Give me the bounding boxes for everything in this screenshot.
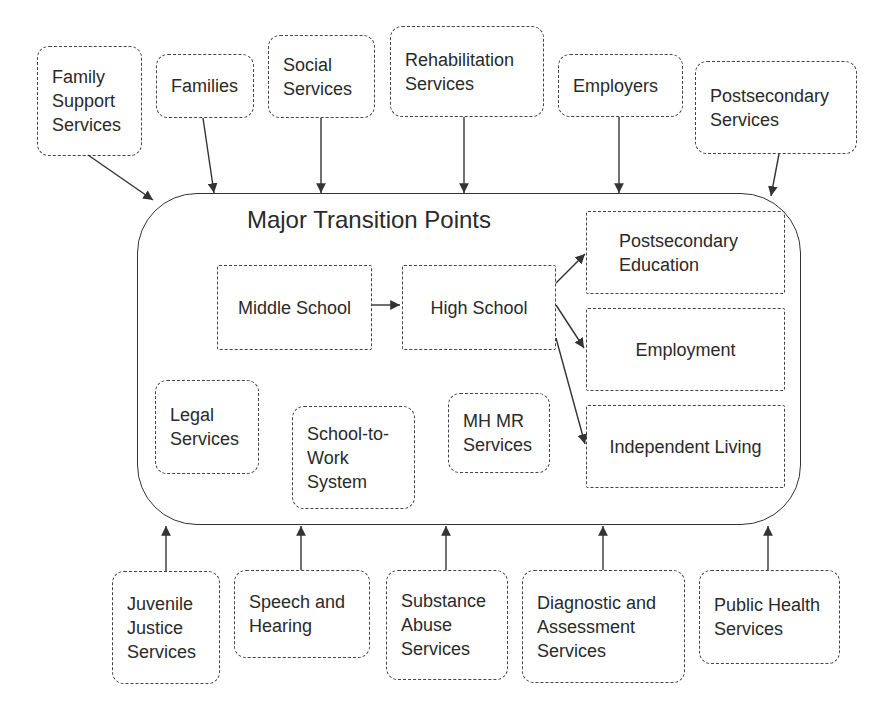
- arrow-high-school-to-employment: [556, 305, 584, 348]
- arrow-layer: [0, 0, 896, 716]
- arrow-high-school-to-independent-living: [556, 338, 585, 444]
- arrow-high-school-to-postsecondary-education: [556, 254, 585, 283]
- arrow-family-support-services-to-main: [88, 155, 153, 200]
- arrow-postsecondary-services-to-main: [771, 154, 779, 196]
- arrow-families-to-main: [203, 118, 214, 193]
